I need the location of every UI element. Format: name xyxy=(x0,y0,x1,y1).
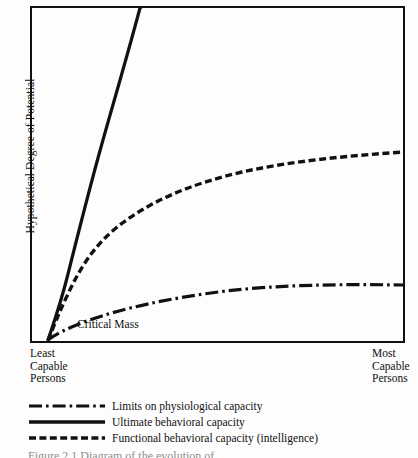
critical-mass-annotation: Critical Mass xyxy=(77,318,139,330)
plot-curves xyxy=(30,6,405,343)
legend-label: Functional behavioral capacity (intellig… xyxy=(112,432,318,444)
x-axis-left-label-line-3: Persons xyxy=(30,372,68,385)
figure-container: Hypothetical Degree of Potential Critica… xyxy=(0,0,418,458)
legend-label: Limits on physiological capacity xyxy=(112,400,262,412)
solid-line-icon xyxy=(28,415,106,429)
x-axis-right-label: Most Capable Persons xyxy=(372,347,410,385)
x-axis-left-label-line-2: Capable xyxy=(30,360,68,373)
x-axis-right-label-line-1: Most xyxy=(372,347,410,360)
legend-label: Ultimate behavioral capacity xyxy=(112,416,245,428)
dash-dot-line-icon xyxy=(28,399,106,413)
x-axis-right-label-line-2: Capable xyxy=(372,360,410,373)
x-axis-left-label-line-1: Least xyxy=(30,347,68,360)
x-axis-right-label-line-3: Persons xyxy=(372,372,410,385)
y-axis-title: Hypothetical Degree of Potential xyxy=(24,56,36,256)
curve-functional-behavioral-capacity xyxy=(48,152,403,340)
figure-caption: Figure 2.1 Diagram of the evolution of..… xyxy=(28,449,223,458)
x-axis-left-label: Least Capable Persons xyxy=(30,347,68,385)
legend-item-limits-on-physiological-capacity: Limits on physiological capacity xyxy=(28,398,388,413)
legend-item-functional-behavioral-capacity: Functional behavioral capacity (intellig… xyxy=(28,430,388,445)
legend-item-ultimate-behavioral-capacity: Ultimate behavioral capacity xyxy=(28,414,388,429)
dashed-line-icon xyxy=(28,431,106,445)
legend: Limits on physiological capacity Ultimat… xyxy=(28,398,388,446)
curve-ultimate-behavioral-capacity xyxy=(48,6,142,340)
curve-limits-on-physiological-capacity xyxy=(48,285,403,340)
